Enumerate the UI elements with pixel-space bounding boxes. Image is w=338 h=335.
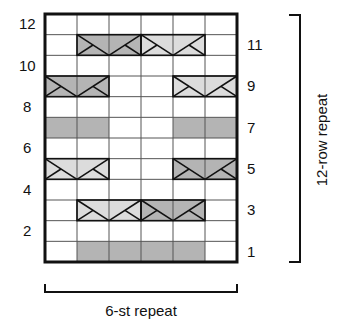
- row-number-6: 6: [23, 139, 31, 156]
- shaded-cell: [173, 241, 205, 262]
- knitting-chart: 12 10 8 6 4 2 11 9 7 5 3 1 12-row repeat…: [0, 0, 338, 335]
- row-number-2: 2: [23, 222, 31, 239]
- shaded-cell: [205, 117, 237, 138]
- row-number-12: 12: [19, 15, 36, 32]
- row-repeat-label: 12-row repeat: [313, 93, 330, 186]
- shaded-cell: [77, 117, 109, 138]
- shaded-cell: [109, 241, 141, 262]
- row-repeat-bracket-line: [289, 15, 300, 262]
- shaded-cell: [77, 241, 109, 262]
- right-row-numbers: 11 9 7 5 3 1: [247, 36, 263, 260]
- row-number-8: 8: [23, 98, 31, 115]
- stitch-repeat-label: 6-st repeat: [105, 302, 178, 319]
- row-repeat-bracket: 12-row repeat: [289, 15, 330, 262]
- row-number-10: 10: [19, 57, 36, 74]
- row-number-11: 11: [247, 36, 263, 53]
- shaded-cell: [45, 117, 77, 138]
- shaded-cell: [141, 241, 173, 262]
- row-number-3: 3: [247, 201, 255, 218]
- row-number-4: 4: [23, 181, 31, 198]
- shaded-cell: [173, 117, 205, 138]
- row-number-5: 5: [247, 160, 255, 177]
- stitch-repeat-bracket-line: [45, 284, 237, 292]
- row-number-9: 9: [247, 77, 255, 94]
- left-row-numbers: 12 10 8 6 4 2: [19, 15, 36, 239]
- stitch-repeat-bracket: 6-st repeat: [45, 284, 237, 319]
- row-number-7: 7: [247, 119, 255, 136]
- row-number-1: 1: [247, 243, 255, 260]
